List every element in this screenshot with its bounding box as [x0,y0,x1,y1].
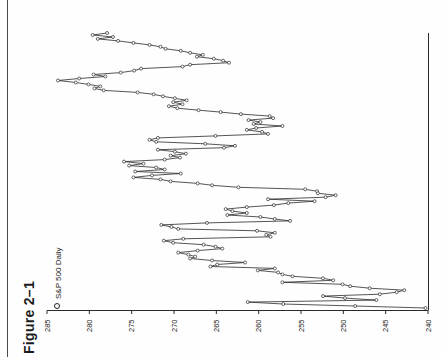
svg-text:260: 260 [254,319,263,332]
svg-text:265: 265 [212,319,221,332]
svg-text:240: 240 [424,319,433,332]
svg-text:255: 255 [297,319,306,332]
svg-text:245: 245 [381,319,390,332]
svg-text:280: 280 [85,319,94,332]
svg-text:285: 285 [43,319,52,332]
price-line-chart: 285280275270265260255250245240 [0,0,443,357]
svg-text:270: 270 [170,319,179,332]
svg-text:275: 275 [127,319,136,332]
svg-text:250: 250 [339,319,348,332]
scanned-figure-page: Figure 2–1 S&P 500 Daily 285280275270265… [0,0,443,357]
